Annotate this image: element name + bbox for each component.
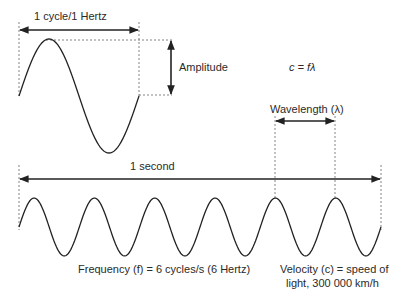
wavelength-guides [19, 116, 381, 230]
top-wave-guides [19, 22, 172, 98]
amplitude-label: Amplitude [179, 61, 228, 73]
top-wave [19, 39, 139, 153]
second-label: 1 second [130, 160, 175, 172]
cycle-label: 1 cycle/1 Hertz [34, 10, 107, 22]
formula-label: c = fλ [289, 61, 316, 73]
bottom-wave [19, 198, 381, 256]
wavelength-label: Wavelength (λ) [270, 103, 344, 115]
velocity-label-line1: Velocity (c) = speed of [280, 263, 389, 275]
frequency-label: Frequency (f) = 6 cycles/s (6 Hertz) [78, 263, 250, 275]
wave-diagram [0, 0, 399, 302]
velocity-label-line2: light, 300 000 km/h [286, 277, 379, 289]
